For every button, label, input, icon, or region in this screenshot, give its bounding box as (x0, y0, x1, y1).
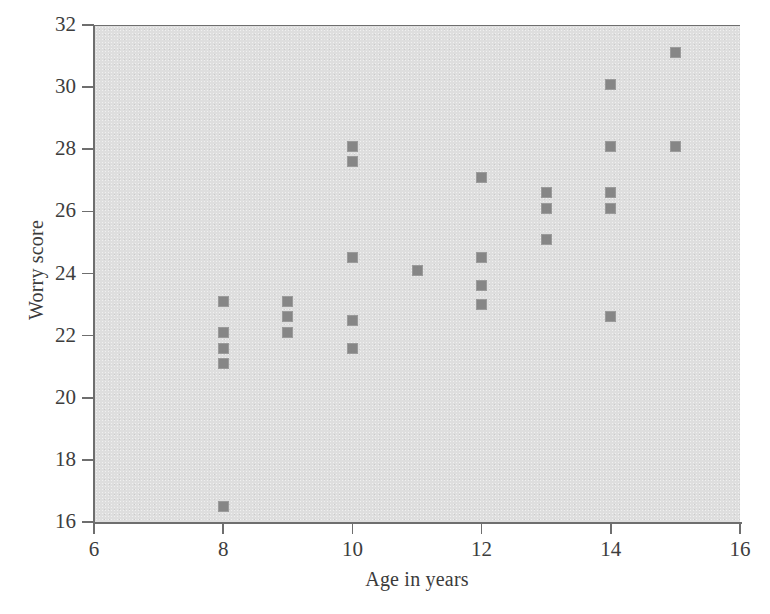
data-point (218, 327, 229, 338)
data-point (541, 234, 552, 245)
data-point (670, 47, 681, 58)
x-axis-tick (352, 522, 354, 534)
data-point (670, 141, 681, 152)
y-axis-tick (82, 86, 94, 88)
data-point (605, 141, 616, 152)
data-point (347, 252, 358, 263)
data-point (282, 311, 293, 322)
y-axis-tick (82, 273, 94, 275)
data-point (541, 187, 552, 198)
x-axis-tick-label: 8 (198, 538, 248, 560)
data-point (347, 343, 358, 354)
x-axis-tick (93, 522, 95, 534)
y-axis-tick (82, 397, 94, 399)
x-axis-tick-label: 12 (457, 538, 507, 560)
data-point (218, 358, 229, 369)
data-point (476, 252, 487, 263)
x-axis-tick-label: 14 (586, 538, 636, 560)
data-point (605, 187, 616, 198)
y-axis-tick-label: 24 (36, 263, 76, 284)
x-axis-tick (739, 522, 741, 534)
data-point (218, 343, 229, 354)
data-point (218, 501, 229, 512)
data-point (412, 265, 423, 276)
x-axis-tick (481, 522, 483, 534)
x-axis-tick-label: 6 (69, 538, 119, 560)
y-axis-tick-label: 20 (36, 387, 76, 408)
data-point (347, 315, 358, 326)
y-axis-tick-label: 28 (36, 138, 76, 159)
data-point (605, 79, 616, 90)
y-axis-tick (82, 24, 94, 26)
y-axis-tick (82, 521, 94, 523)
y-axis-tick (82, 148, 94, 150)
data-point (476, 299, 487, 310)
data-point (541, 203, 552, 214)
y-axis-tick (82, 211, 94, 213)
data-point (476, 280, 487, 291)
data-point (347, 141, 358, 152)
data-point (347, 156, 358, 167)
y-axis-tick (82, 459, 94, 461)
x-axis-tick-label: 10 (327, 538, 377, 560)
y-axis-tick-label: 18 (36, 449, 76, 470)
y-axis-tick-label: 16 (36, 511, 76, 532)
scatter-plot-figure: Worry score 161820222426283032 681012141… (0, 0, 770, 614)
y-axis-tick-label: 22 (36, 325, 76, 346)
data-point (605, 311, 616, 322)
x-axis-label: Age in years (94, 568, 740, 591)
data-point (218, 296, 229, 307)
x-axis-tick (610, 522, 612, 534)
x-axis-tick (222, 522, 224, 534)
y-axis-tick-label: 26 (36, 200, 76, 221)
data-point (282, 296, 293, 307)
y-axis-tick-label: 32 (36, 14, 76, 35)
x-axis-tick-label: 16 (715, 538, 765, 560)
data-point (282, 327, 293, 338)
data-point (605, 203, 616, 214)
data-point (476, 172, 487, 183)
y-axis-tick (82, 335, 94, 337)
y-axis-tick-label: 30 (36, 76, 76, 97)
x-axis-line (94, 522, 742, 524)
